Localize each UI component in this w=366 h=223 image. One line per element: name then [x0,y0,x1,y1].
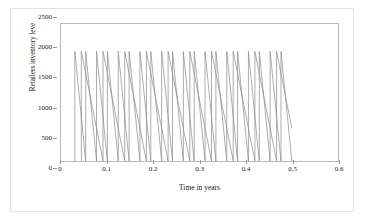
x-tick-label: 0.2 [149,165,158,173]
y-tick-mark [53,168,57,169]
y-tick-label: 1000 [38,104,52,111]
x-tick-label: 0.1 [102,165,111,173]
plot-area [60,23,339,162]
x-axis-title: Time in years [60,183,339,192]
x-tick-mark [200,160,201,164]
y-tick-label: 2000 [38,44,52,51]
series-lines [61,24,338,161]
x-tick-label: 0.3 [195,165,204,173]
x-tick-label: 0.6 [335,165,344,173]
series-line [75,51,292,161]
y-tick-label: 500 [42,134,53,141]
chart-figure: 2500 2000 1500 1000 500 0 Retailers inve… [10,8,354,212]
y-tick-mark [53,17,57,18]
y-tick-label: 1500 [38,74,52,81]
y-axis-title: Retailers inventory leve [29,0,37,123]
y-tick-mark [53,47,57,48]
y-tick-mark [53,77,57,78]
x-tick-label: 0 [58,165,62,173]
x-tick-mark [107,160,108,164]
y-tick-mark [53,108,57,109]
x-tick-mark [153,160,154,164]
y-tick-label: 0 [49,165,53,172]
y-tick-label: 2500 [38,14,52,21]
x-tick-mark [339,160,340,164]
x-tick-label: 0.4 [242,165,251,173]
x-tick-mark [293,160,294,164]
x-tick-label: 0.5 [288,165,297,173]
x-tick-mark [60,160,61,164]
x-tick-mark [246,160,247,164]
x-axis: 0 0.1 0.2 0.3 0.4 0.5 0.6 [60,165,339,179]
y-tick-mark [53,138,57,139]
